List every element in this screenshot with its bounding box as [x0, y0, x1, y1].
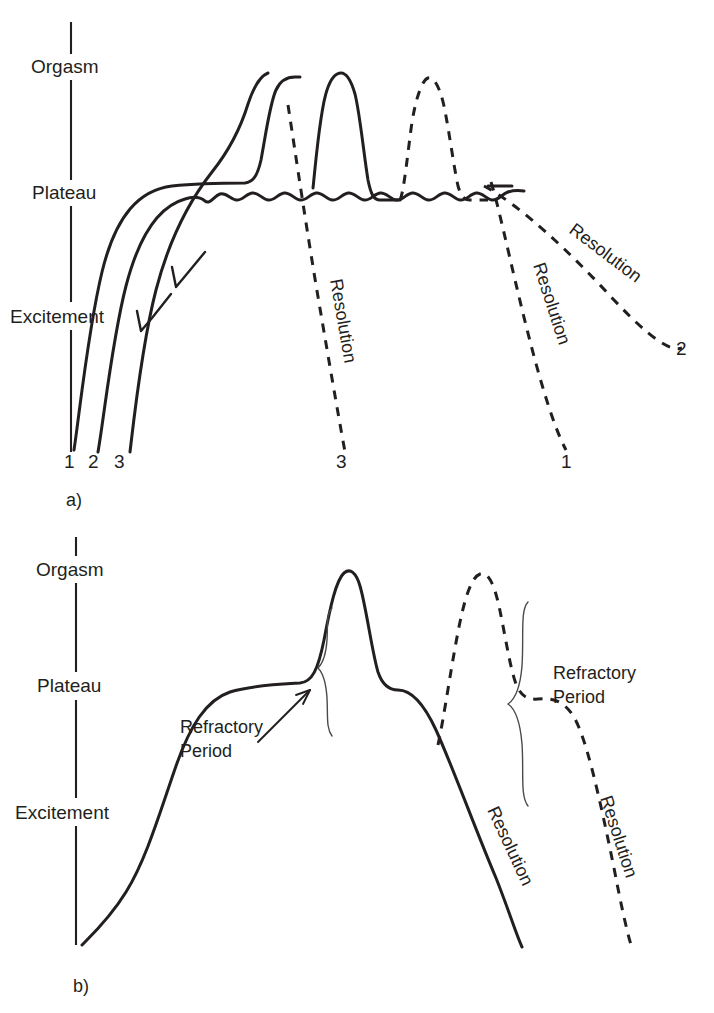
figure-root: Orgasm Plateau Excitement 1 2 3 3 1 2 Re… — [0, 0, 714, 1013]
sexual-response-cycle-figure: Orgasm Plateau Excitement 1 2 3 3 1 2 Re… — [0, 0, 714, 1013]
panel-b-caption: b) — [73, 976, 89, 996]
panel-b-axis-label-orgasm: Orgasm — [36, 559, 104, 580]
panel-b-refractory-label-left-line1: Refractory — [180, 717, 263, 737]
panel-a-resolution-2 — [484, 186, 682, 349]
panel-a-orgasm-peak — [313, 73, 400, 200]
panel-a-end-marker-3: 3 — [336, 451, 347, 472]
panel-b-refractory-label-right-line1: Refractory — [553, 663, 636, 683]
panel-a-caption: a) — [66, 490, 82, 510]
panel-a-resolution-label-3: Resolution — [326, 277, 360, 364]
panel-a-start-marker-2: 2 — [88, 451, 99, 472]
panel-a-curve-2 — [98, 190, 524, 452]
panel-a-start-marker-1: 1 — [64, 451, 75, 472]
panel-a-hook-mark-upper — [172, 252, 205, 287]
panel-a-curve-3 — [130, 73, 268, 452]
panel-a-end-marker-2: 2 — [676, 338, 687, 359]
panel-b-refractory-label-right-line2: Period — [553, 687, 605, 707]
panel-a-resolution-label-1: Resolution — [529, 260, 574, 347]
panel-b-main-curve — [82, 571, 522, 947]
panel-b-refractory-brace-right — [508, 602, 528, 806]
panel-b-refractory-label-left-line2: Period — [180, 741, 232, 761]
panel-b-axis-label-excitement: Excitement — [15, 802, 110, 823]
panel-a-orgasm-peak-dashed — [400, 78, 488, 200]
panel-b-resolution-label-solid: Resolution — [483, 803, 537, 889]
panel-a-axis-label-excitement: Excitement — [10, 306, 105, 327]
panel-a-end-marker-1: 1 — [561, 451, 572, 472]
panel-b: Orgasm Plateau Excitement Refractory Per… — [15, 537, 642, 996]
panel-b-refractory-arrow-left — [258, 690, 310, 742]
panel-a-axis-label-plateau: Plateau — [32, 182, 96, 203]
panel-b-dashed-curve — [438, 574, 632, 948]
panel-a: Orgasm Plateau Excitement 1 2 3 3 1 2 Re… — [10, 22, 687, 510]
panel-b-resolution-label-dashed: Resolution — [596, 793, 641, 880]
panel-b-axis-label-plateau: Plateau — [37, 675, 101, 696]
panel-a-resolution-label-2: Resolution — [566, 219, 646, 286]
panel-a-axis-label-orgasm: Orgasm — [31, 56, 99, 77]
panel-a-start-marker-3: 3 — [114, 451, 125, 472]
